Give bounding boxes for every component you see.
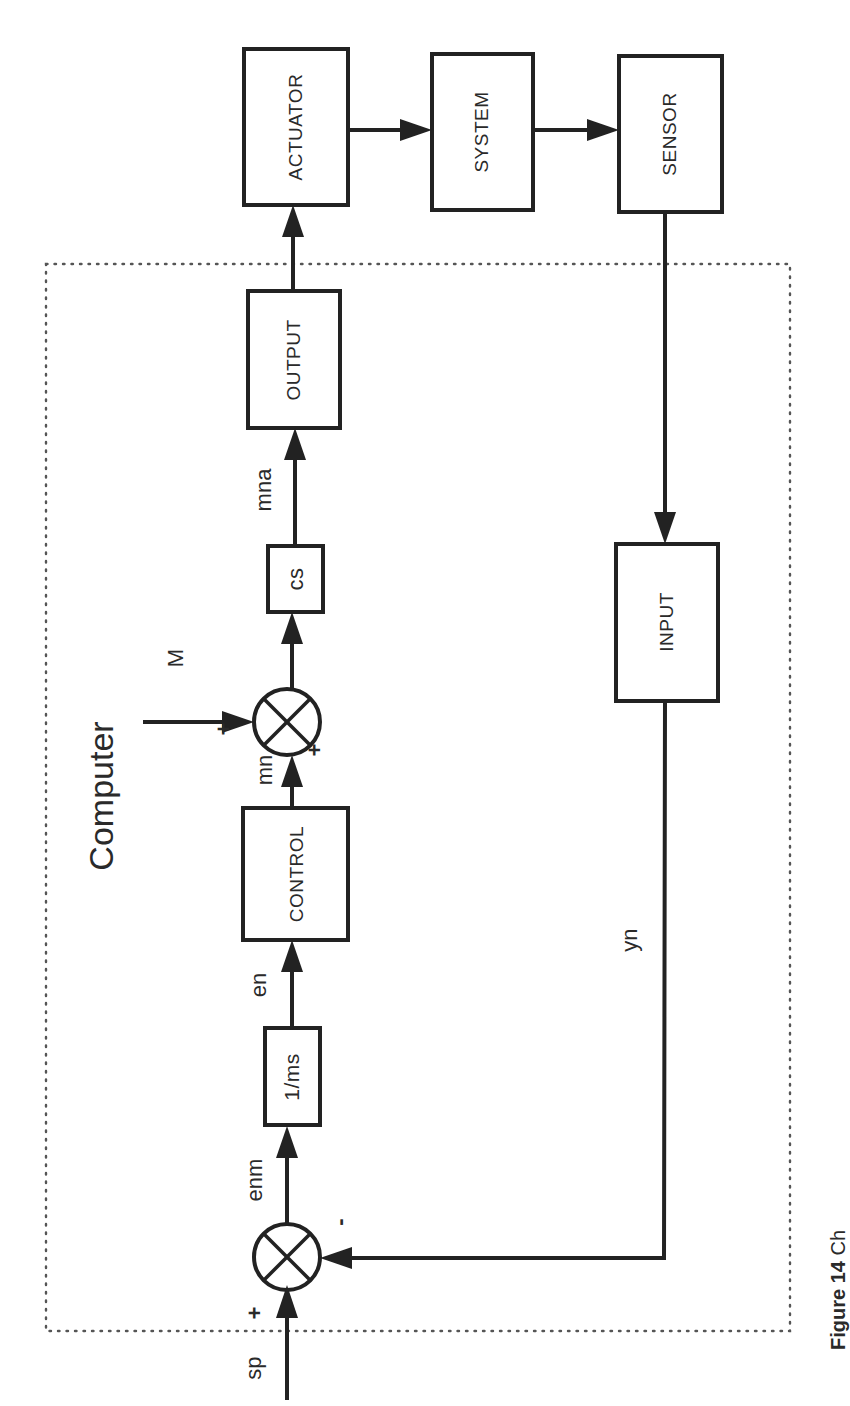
sum2-plus-sign-mn: + (302, 744, 328, 757)
figure-caption-text: Ch (827, 1230, 849, 1256)
arrow-mn (281, 755, 303, 787)
control-label: CONTROL (286, 826, 308, 922)
sensor-label: SENSOR (659, 92, 681, 175)
system-label: SYSTEM (471, 91, 493, 172)
sum1-plus-sign: + (242, 1307, 268, 1320)
actuator-label: ACTUATOR (285, 74, 307, 181)
arrow-cs (281, 612, 303, 644)
feedback-line (350, 701, 665, 1258)
computer-boundary (46, 264, 790, 1331)
arrow-mna (284, 428, 306, 460)
arrow-enm (276, 1126, 298, 1158)
mna-signal-label: mna (251, 469, 277, 512)
figure-caption-label: Figure 14 (827, 1261, 849, 1350)
inv-ms-label: 1/ms (280, 1053, 304, 1101)
figure-caption: Figure 14 Ch (827, 1230, 850, 1350)
arrow-sensor (587, 119, 619, 141)
mn-signal-label: mn (252, 755, 278, 786)
arrow-actuator (282, 205, 304, 237)
sp-signal-label: sp (241, 1356, 267, 1379)
sum2-plus-sign-M: + (211, 723, 237, 736)
arrow-feedback (320, 1247, 352, 1269)
yn-signal-label: yn (617, 928, 643, 951)
arrow-system (400, 119, 432, 141)
enm-signal-label: enm (242, 1159, 268, 1202)
en-signal-label: en (246, 973, 272, 997)
arrow-en (281, 940, 303, 972)
cs-label: cs (283, 568, 309, 591)
summing-junction-1 (254, 1224, 320, 1290)
input-label: INPUT (656, 592, 678, 652)
computer-title: Computer (82, 721, 121, 870)
M-signal-label: M (163, 649, 189, 667)
output-label: OUTPUT (283, 319, 305, 400)
sum1-minus-sign: - (327, 1218, 353, 1225)
arrow-input (654, 512, 676, 544)
